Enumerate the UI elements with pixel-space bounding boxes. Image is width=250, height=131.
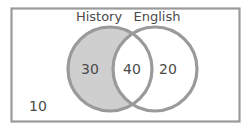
english-set-label: English bbox=[134, 9, 181, 24]
english-only-count: 20 bbox=[159, 61, 177, 77]
venn-diagram-canvas: History English 30 40 20 10 bbox=[0, 0, 250, 131]
venn-diagram-figure: History English 30 40 20 10 bbox=[0, 0, 250, 131]
intersection-count: 40 bbox=[123, 61, 141, 77]
history-only-count: 30 bbox=[81, 61, 99, 77]
history-set-label: History bbox=[76, 9, 123, 24]
outside-count: 10 bbox=[29, 98, 47, 114]
